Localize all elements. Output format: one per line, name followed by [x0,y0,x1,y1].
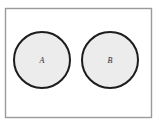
set-a-label: A [39,56,45,65]
set-b-label: B [108,56,113,65]
venn-diagram-canvas: A B [0,0,161,127]
venn-diagram-figure: A B [0,0,161,127]
